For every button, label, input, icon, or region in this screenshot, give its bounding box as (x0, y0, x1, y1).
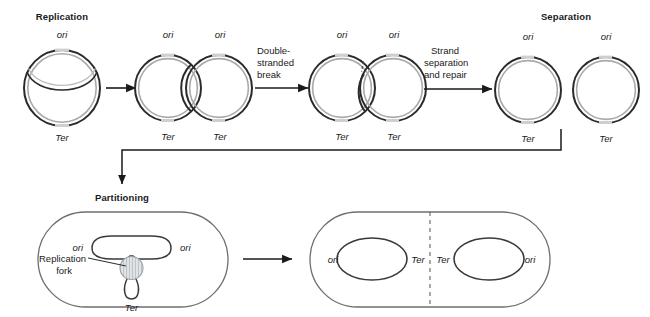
separated-circle-right-outer (573, 57, 639, 123)
ter-label: Ter (161, 131, 175, 142)
ter-site-marker (335, 119, 348, 122)
separated-circle-right-inner (577, 61, 636, 120)
ori-label-left: ori (328, 254, 339, 265)
ori-site-marker (161, 54, 174, 57)
arrow-strand-separation-and-repair: Strand separation and repair (424, 45, 492, 89)
replication-fork-node (120, 257, 143, 280)
stage-label-separation: Separation (541, 11, 591, 22)
arrow-double-stranded-break: Double- stranded break (255, 45, 308, 88)
ori-label: ori (57, 29, 68, 40)
replication-bubble-arc-shadow (29, 69, 96, 86)
ter-label-bottom: Ter (125, 302, 139, 313)
replication-fork-label-line1: Replication (39, 253, 86, 264)
ter-site-marker (55, 124, 69, 127)
ori-site-marker (55, 49, 69, 52)
ter-label: Ter (521, 133, 535, 144)
ori-label: ori (337, 29, 348, 40)
bacterial-chromosome-replication-diagram: Replication ori Ter ori ori Ter Ter Doub… (0, 0, 650, 317)
separated-circle-left-outer (495, 57, 561, 123)
ori-label: ori (389, 29, 400, 40)
ter-label: Ter (387, 131, 401, 142)
daughter-chromosome-right (454, 238, 524, 280)
figure-canvas: Replication ori Ter ori ori Ter Ter Doub… (0, 0, 650, 317)
chromosome-ter-loop (124, 277, 138, 299)
ori-label: ori (163, 29, 174, 40)
divided-cell: ori Ter Ter ori (310, 212, 550, 307)
catenated-circle-right-inner (190, 59, 249, 118)
replication-fork-label-line2: fork (56, 265, 72, 276)
stage-separation: Separation ori ori Ter Ter (495, 11, 639, 144)
catenated-circle-right-inner (364, 59, 423, 118)
stage-label-replication: Replication (36, 11, 88, 22)
double-stranded-break-gap (362, 62, 364, 72)
ori-label: ori (215, 29, 226, 40)
ter-site-marker (212, 119, 225, 122)
ori-label: ori (523, 31, 534, 42)
break-label-line2: stranded (257, 57, 294, 68)
partitioning-cell: ori ori Ter Replication fork (38, 212, 228, 313)
stage-replication-theta: Replication ori Ter (24, 11, 100, 143)
ter-site-marker (386, 119, 399, 122)
catenated-circle-right-outer (186, 55, 252, 121)
ori-site-marker (599, 56, 612, 59)
ter-site-marker (161, 119, 174, 122)
ter-label: Ter (599, 133, 613, 144)
break-label-line3: break (257, 69, 281, 80)
chromosome-outer-strand (24, 50, 100, 126)
ori-label-right: ori (525, 254, 536, 265)
repair-label-line3: and repair (424, 69, 467, 80)
chromosome-theta-top-loop (92, 236, 171, 259)
ter-label-left: Ter (411, 254, 425, 265)
break-label-line1: Double- (257, 45, 290, 56)
stage-catenated-pair-with-break: ori ori Ter Ter (309, 29, 426, 142)
daughter-chromosome-left (337, 238, 407, 280)
ori-label: ori (601, 31, 612, 42)
ter-site-marker (599, 121, 612, 124)
catenated-circle-right-outer (360, 55, 426, 121)
ori-site-marker (386, 54, 399, 57)
ori-site-marker (335, 54, 348, 57)
ori-label-right: ori (180, 242, 191, 253)
ter-label-right: Ter (436, 254, 450, 265)
separated-circle-left-inner (499, 61, 558, 120)
ter-site-marker (521, 121, 534, 124)
ter-label: Ter (55, 132, 69, 143)
ter-label: Ter (335, 131, 349, 142)
stage-label-partitioning: Partitioning (95, 192, 149, 203)
ori-site-marker (212, 54, 225, 57)
ori-site-marker (521, 56, 534, 59)
chromosome-inner-strand (28, 54, 96, 122)
repair-label-line2: separation (424, 57, 468, 68)
stage-catenated-pair: ori ori Ter Ter (135, 29, 252, 142)
repair-label-line1: Strand (431, 45, 459, 56)
ori-label-left: ori (72, 242, 83, 253)
ter-label: Ter (213, 131, 227, 142)
replication-bubble-arc (27, 72, 97, 90)
